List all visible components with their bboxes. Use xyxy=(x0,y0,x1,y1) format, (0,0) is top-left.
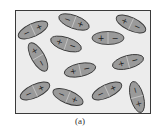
dipole: +− xyxy=(92,32,124,45)
minus-sign-right: − xyxy=(112,34,119,43)
plus-sign-left: + xyxy=(98,34,105,43)
figure-caption: (a) xyxy=(0,116,160,126)
